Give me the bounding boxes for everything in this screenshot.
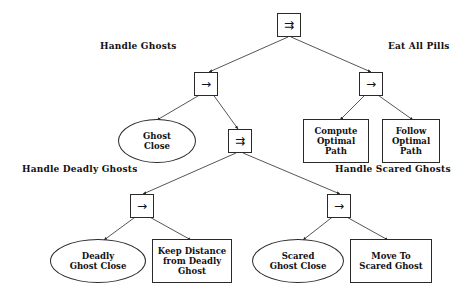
parallel-icon: ⇉	[235, 135, 245, 147]
node-label-line-3: Path	[400, 146, 422, 156]
annotation-eat-all-pills: Eat All Pills	[388, 41, 450, 51]
annotation-handle-scared-ghosts: Handle Scared Ghosts	[335, 164, 451, 174]
edge-right-sequence-to-compute	[340, 93, 367, 120]
node-mid-parallel[interactable]: ⇉	[228, 129, 252, 153]
node-follow-optimal-path[interactable]: Follow Optimal Path	[382, 119, 440, 163]
node-left-sequence[interactable]: →	[194, 72, 218, 96]
node-label-line-1: Ghost	[143, 131, 171, 141]
edge-deadly-sequence-to-keep-distance	[146, 215, 191, 240]
node-label-line-3: Path	[325, 146, 347, 156]
node-compute-optimal-path[interactable]: Compute Optimal Path	[303, 119, 369, 163]
node-scared-ghost-close[interactable]: Scared Ghost Close	[252, 239, 344, 283]
node-root-parallel[interactable]: ⇉	[277, 13, 301, 37]
node-label-line-1: Scared	[282, 251, 315, 261]
edge-deadly-sequence-to-deadly-ghost-close	[104, 215, 138, 240]
node-label-line-3: Ghost	[178, 266, 206, 276]
node-deadly-ghost-close[interactable]: Deadly Ghost Close	[50, 239, 146, 283]
edge-left-sequence-to-ghost-close	[157, 93, 203, 120]
node-label-line-1: Compute	[315, 126, 358, 136]
node-keep-distance-from-deadly-ghost[interactable]: Keep Distance from Deadly Ghost	[152, 239, 232, 283]
edge-root-to-right-sequence	[291, 37, 371, 72]
node-label-line-1: Follow	[396, 126, 427, 136]
node-move-to-scared-ghost[interactable]: Move To Scared Ghost	[350, 239, 432, 283]
sequence-icon: →	[334, 200, 344, 212]
behavior-tree-diagram: ⇉ Handle Ghosts Eat All Pills → → Ghost …	[0, 0, 473, 285]
node-label-line-2: from Deadly	[163, 256, 221, 266]
sequence-icon: →	[201, 78, 211, 90]
annotation-handle-deadly-ghosts: Handle Deadly Ghosts	[22, 164, 137, 174]
node-scared-sequence[interactable]: →	[327, 194, 351, 218]
node-label-line-1: Deadly	[82, 251, 114, 261]
edge-scared-sequence-to-scared-ghost-close	[303, 215, 335, 240]
sequence-icon: →	[137, 200, 147, 212]
node-label-line-2: Optimal	[317, 136, 355, 146]
node-deadly-sequence[interactable]: →	[130, 194, 154, 218]
annotation-handle-ghosts: Handle Ghosts	[100, 41, 177, 51]
edge-right-sequence-to-follow	[375, 93, 413, 120]
node-label-line-2: Close	[144, 141, 170, 151]
edge-left-sequence-to-mid-parallel	[212, 93, 238, 129]
node-ghost-close[interactable]: Ghost Close	[118, 119, 196, 163]
node-label-line-2: Scared Ghost	[359, 261, 422, 271]
parallel-icon: ⇉	[284, 19, 294, 31]
node-right-sequence[interactable]: →	[359, 72, 383, 96]
edge-scared-sequence-to-move-to-scared	[343, 215, 388, 240]
node-label-line-2: Ghost Close	[270, 261, 327, 271]
sequence-icon: →	[366, 78, 376, 90]
node-label-line-1: Move To	[371, 251, 410, 261]
node-label-line-2: Ghost Close	[70, 261, 127, 271]
edge-root-to-left-sequence	[209, 37, 288, 72]
node-label-line-2: Optimal	[392, 136, 430, 146]
node-label-line-1: Keep Distance	[158, 246, 227, 256]
